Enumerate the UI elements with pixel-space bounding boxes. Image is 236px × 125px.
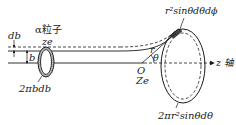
label-alpha-particle: α粒子 — [35, 23, 62, 35]
label-z-axis: z 轴 — [215, 57, 235, 68]
trajectory-solid — [118, 31, 178, 51]
label-theta: θ — [153, 52, 159, 63]
ring-leader — [38, 76, 42, 82]
label-annulus-area: 2πr²sinθdθ — [157, 110, 213, 121]
label-solid-angle-element: r²sinθdθdϕ — [165, 5, 218, 16]
incident-ring — [38, 47, 54, 77]
label-nucleus-charge: Ze — [135, 75, 149, 86]
label-db: db — [8, 30, 21, 41]
label-ring-area: 2πbdb — [18, 83, 51, 94]
label-alpha-charge: ze — [41, 36, 53, 47]
scattering-diagram: db b α粒子 ze 2πbdb r²sinθdθdϕ O Ze r θ z … — [0, 0, 236, 125]
annulus-leader — [176, 103, 178, 108]
label-b: b — [29, 52, 35, 63]
patch-leader — [180, 18, 184, 29]
radius-line — [142, 33, 176, 63]
